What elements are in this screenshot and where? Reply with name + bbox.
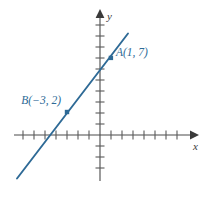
- point-marker-a: [109, 56, 113, 60]
- point-b-label: B(−3, 2): [21, 94, 61, 107]
- y-axis-label: y: [106, 10, 112, 22]
- line-ab: [17, 34, 128, 179]
- point-a-label: A(1, 7): [115, 46, 148, 59]
- x-axis-group: x: [14, 131, 199, 153]
- x-axis-label: x: [192, 140, 198, 152]
- coordinate-plane-figure: x y: [0, 0, 211, 197]
- y-axis-group: y: [96, 9, 113, 181]
- point-marker-b: [65, 110, 69, 114]
- plotted-line-group: [17, 34, 128, 179]
- x-axis-arrowhead: [190, 131, 199, 140]
- graph-canvas: x y: [0, 0, 211, 197]
- point-labels-group: A(1, 7) B(−3, 2): [21, 46, 148, 107]
- y-axis-arrowhead: [96, 9, 105, 18]
